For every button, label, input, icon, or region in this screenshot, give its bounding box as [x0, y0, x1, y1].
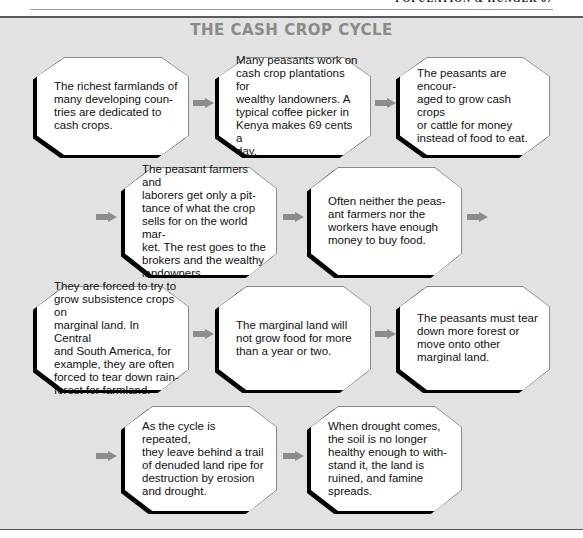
step-text: When drought comes, the soil is no longe… — [328, 406, 452, 511]
step-text: The peasant farmers and laborers get onl… — [142, 167, 267, 275]
cycle-step-1: The richest farmlands of many developing… — [37, 57, 189, 155]
cycle-step-6: They are forced to try to grow subsisten… — [37, 286, 189, 390]
arrow-right-icon — [193, 98, 215, 108]
arrow-right-icon — [375, 329, 397, 339]
arrow-right-icon — [283, 451, 305, 461]
cycle-step-5: Often neither the peas- ant farmers nor … — [311, 167, 462, 275]
cycle-step-2: Many peasants work on cash crop plantati… — [219, 57, 371, 155]
step-text: They are forced to try to grow subsisten… — [54, 286, 179, 390]
step-text: The peasants must tear down more forest … — [417, 286, 540, 390]
step-text: The richest farmlands of many developing… — [54, 57, 179, 155]
step-text: Often neither the peas- ant farmers nor … — [328, 167, 452, 275]
step-text: As the cycle is repeated, they leave beh… — [142, 406, 267, 511]
arrow-right-icon — [193, 329, 215, 339]
step-text: Many peasants work on cash crop plantati… — [236, 57, 361, 155]
cycle-step-10: When drought comes, the soil is no longe… — [311, 406, 462, 511]
step-text: The marginal land will not grow food for… — [236, 286, 361, 390]
arrow-right-icon — [467, 212, 489, 222]
cycle-step-7: The marginal land will not grow food for… — [219, 286, 371, 390]
cycle-step-9: As the cycle is repeated, they leave beh… — [125, 406, 277, 511]
arrow-right-icon — [283, 212, 305, 222]
diagram-title: THE CASH CROP CYCLE — [0, 21, 583, 39]
arrow-right-icon — [96, 451, 118, 461]
cycle-step-3: The peasants are encour- aged to grow ca… — [400, 57, 550, 155]
cycle-step-4: The peasant farmers and laborers get onl… — [125, 167, 277, 275]
arrow-right-icon — [375, 98, 397, 108]
step-text: The peasants are encour- aged to grow ca… — [417, 57, 540, 155]
cycle-step-8: The peasants must tear down more forest … — [400, 286, 550, 390]
arrow-right-icon — [96, 212, 118, 222]
running-head-text: POPULATION & HUNGER 67 — [395, 0, 553, 4]
running-head: POPULATION & HUNGER 67 — [30, 0, 553, 10]
